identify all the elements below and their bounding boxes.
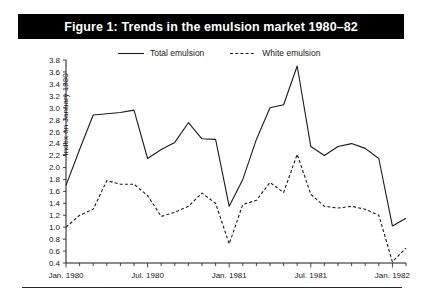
y-tick-label: 1.6 [49, 187, 61, 196]
plot-area: 3.83.63.43.23.02.82.62.42.22.01.81.61.41… [0, 0, 422, 301]
y-tick-label: 0.6 [49, 247, 61, 256]
x-tick-label: Jan. 1980 [48, 271, 84, 280]
y-tick-label: 3.6 [49, 68, 61, 77]
y-tick-label: 0.4 [49, 259, 61, 268]
y-tick-label: 2.6 [49, 128, 61, 137]
chart-svg: 3.83.63.43.23.02.82.62.42.22.01.81.61.41… [0, 0, 422, 301]
x-tick-label: Jan. 1982 [375, 271, 411, 280]
y-tick-label: 1.0 [49, 223, 61, 232]
y-tick-label: 2.8 [49, 116, 61, 125]
x-tick-label: Jul. 1981 [295, 271, 328, 280]
y-tick-label: 2.0 [49, 163, 61, 172]
series-line-white-emulsion [66, 154, 406, 261]
y-tick-label: 1.4 [49, 199, 61, 208]
figure-root: Figure 1: Trends in the emulsion market … [0, 0, 422, 301]
x-tick-label: Jul. 1980 [131, 271, 164, 280]
series-line-total-emulsion [66, 66, 406, 226]
y-tick-label: 3.8 [49, 56, 61, 65]
y-tick-label: 2.4 [49, 139, 61, 148]
y-tick-label: 2.2 [49, 151, 61, 160]
x-tick-label: Jan. 1981 [212, 271, 248, 280]
y-tick-label: 3.0 [49, 104, 61, 113]
y-tick-label: 3.2 [49, 92, 61, 101]
y-tick-label: 0.8 [49, 235, 61, 244]
y-tick-label: 1.2 [49, 211, 61, 220]
y-tick-label: 3.4 [49, 80, 61, 89]
y-tick-label: 1.8 [49, 175, 61, 184]
bottom-divider [22, 287, 402, 288]
